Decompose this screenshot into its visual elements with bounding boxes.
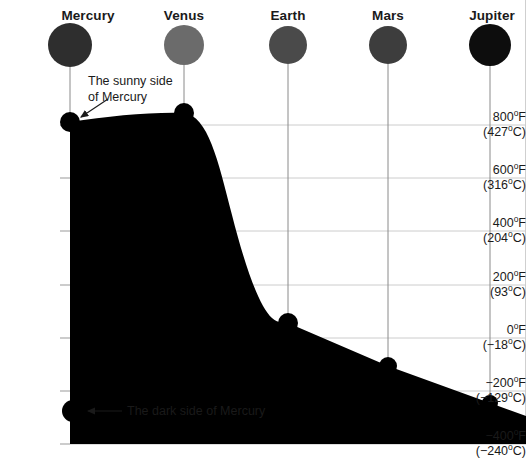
planet-label-venus: Venus <box>164 8 204 23</box>
data-point-mercury-dark[interactable] <box>62 400 84 422</box>
planet-label-mercury: Mercury <box>61 8 114 23</box>
axis-tick-minus200-c: (−129oC) <box>476 391 526 405</box>
axis-tick-800: 800oF (427oC) <box>458 110 526 140</box>
planet-label-mars: Mars <box>372 8 404 23</box>
axis-tick-minus200: −200oF (−129oC) <box>458 376 526 406</box>
temperature-chart: Mercury Venus Earth Mars Jupiter 800oF (… <box>0 0 526 466</box>
planet-icon-mercury[interactable] <box>48 23 92 67</box>
axis-tick-0: 0oF (−18oC) <box>458 323 526 353</box>
axis-tick-minus400: −400oF (−240oC) <box>458 429 526 459</box>
axis-tick-200: 200oF (93oC) <box>458 270 526 300</box>
axis-tick-200-c: (93oC) <box>490 285 526 299</box>
data-point-mercury-sunny[interactable] <box>60 112 80 132</box>
data-point-earth[interactable] <box>278 313 298 333</box>
axis-tick-minus400-c: (−240oC) <box>476 444 526 458</box>
planet-label-earth: Earth <box>270 8 305 23</box>
annotation-dark-side: The dark side of Mercury <box>127 403 265 419</box>
data-point-venus[interactable] <box>174 103 194 123</box>
axis-tick-600: 600oF (316oC) <box>458 163 526 193</box>
planet-icon-venus[interactable] <box>164 25 204 65</box>
axis-tick-minus200-f: −200oF <box>485 376 526 390</box>
mercury-axis-column <box>70 122 84 344</box>
axis-tick-600-c: (316oC) <box>483 178 526 192</box>
annotation-sunny-side: The sunny side of Mercury <box>88 73 173 105</box>
axis-tick-minus400-f: −400oF <box>485 429 526 443</box>
planet-icon-jupiter[interactable] <box>469 24 511 66</box>
planet-glyphs <box>48 23 511 67</box>
axis-tick-400: 400oF (204oC) <box>458 216 526 246</box>
axis-tick-0-c: (−18oC) <box>483 338 526 352</box>
planet-label-jupiter: Jupiter <box>469 8 515 23</box>
tick-marks <box>60 125 70 444</box>
axis-tick-400-c: (204oC) <box>483 231 526 245</box>
data-point-mars[interactable] <box>379 357 397 375</box>
chart-canvas <box>0 0 526 466</box>
axis-tick-800-c: (427oC) <box>483 125 526 139</box>
planet-icon-earth[interactable] <box>269 26 307 64</box>
planet-icon-mars[interactable] <box>369 26 407 64</box>
